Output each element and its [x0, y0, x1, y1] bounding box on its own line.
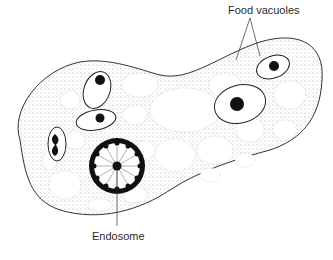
endosome [113, 162, 122, 171]
diagram: Food vacuoles Endosome [0, 0, 333, 260]
label-endosome: Endosome [92, 230, 145, 242]
cell-illustration [0, 0, 333, 260]
label-food-vacuoles: Food vacuoles [228, 4, 300, 16]
